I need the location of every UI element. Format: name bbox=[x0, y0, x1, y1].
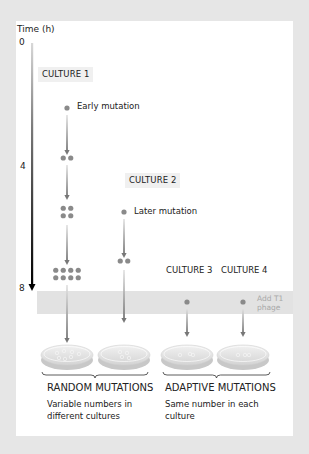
culture-1-arrow-head bbox=[64, 195, 69, 200]
axis-title: Time (h) bbox=[17, 25, 55, 34]
culture-1-arrow bbox=[66, 165, 68, 196]
adaptive-mutations-heading: ADAPTIVE MUTATIONS bbox=[165, 383, 276, 393]
culture-4-dot bbox=[240, 299, 245, 304]
random-mutations-heading: RANDOM MUTATIONS bbox=[47, 383, 153, 393]
culture-4-label: CULTURE 4 bbox=[221, 266, 268, 275]
culture-1-dot bbox=[76, 268, 81, 273]
adaptive-mutations-description: Same number in each culture bbox=[165, 398, 280, 422]
culture-1-arrow bbox=[66, 115, 68, 151]
later-mutation-label: Later mutation bbox=[134, 207, 197, 216]
culture-2-dot bbox=[118, 258, 123, 263]
culture-1-dot bbox=[68, 206, 73, 211]
culture-2-arrow-head bbox=[121, 253, 126, 258]
culture-3-label: CULTURE 3 bbox=[166, 266, 213, 275]
culture-4-arrow bbox=[242, 308, 244, 333]
culture-2-label: CULTURE 2 bbox=[125, 173, 180, 188]
petri-dish-2 bbox=[98, 345, 150, 365]
culture-1-dot bbox=[68, 155, 73, 160]
culture-1-dot bbox=[64, 105, 69, 110]
axis-tick-8: 8 bbox=[19, 284, 25, 293]
culture-1-dot bbox=[76, 275, 81, 280]
time-axis bbox=[31, 43, 33, 285]
time-axis-arrowhead bbox=[29, 284, 36, 291]
culture-2-arrow bbox=[123, 219, 125, 254]
culture-2-dot bbox=[125, 258, 130, 263]
culture-1-dot bbox=[61, 155, 66, 160]
culture-1-arrow-head bbox=[64, 260, 69, 265]
culture-1-arrow bbox=[66, 285, 68, 339]
culture-1-dot bbox=[68, 213, 73, 218]
petri-dish-1 bbox=[41, 345, 93, 365]
culture-1-arrow-head bbox=[64, 338, 69, 343]
petri-dish-3 bbox=[161, 345, 213, 365]
axis-tick-4: 4 bbox=[20, 162, 26, 171]
culture-1-dot bbox=[53, 275, 58, 280]
culture-3-dot bbox=[184, 299, 189, 304]
axis-tick-0: 0 bbox=[19, 38, 25, 47]
early-mutation-label: Early mutation bbox=[77, 102, 140, 111]
culture-2-dot bbox=[121, 209, 126, 214]
culture-1-arrow bbox=[66, 225, 68, 261]
culture-1-dot bbox=[68, 275, 73, 280]
culture-1-dot bbox=[61, 213, 66, 218]
culture-2-arrow bbox=[123, 270, 125, 319]
culture-1-arrow-head bbox=[64, 150, 69, 155]
culture-1-label: CULTURE 1 bbox=[38, 67, 93, 82]
culture-4-arrow-head bbox=[240, 332, 245, 337]
culture-1-dot bbox=[68, 268, 73, 273]
culture-1-dot bbox=[53, 268, 58, 273]
random-mutations-description: Variable numbers in different cultures bbox=[47, 398, 162, 422]
culture-3-arrow bbox=[186, 308, 188, 333]
culture-1-dot bbox=[61, 268, 66, 273]
culture-1-dot bbox=[61, 206, 66, 211]
culture-1-dot bbox=[61, 275, 66, 280]
adaptive-brace bbox=[163, 372, 270, 378]
random-brace bbox=[42, 372, 148, 378]
culture-3-arrow-head bbox=[184, 332, 189, 337]
culture-2-arrow-head bbox=[121, 318, 126, 323]
